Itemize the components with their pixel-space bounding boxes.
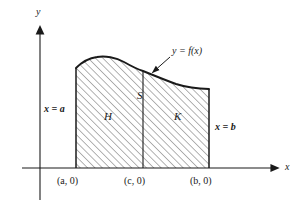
tick-label-c: (c, 0) [124, 176, 145, 186]
region-label-h: H [104, 111, 112, 122]
curve-label-leader-line [153, 57, 171, 73]
y-axis-label: y [36, 7, 40, 17]
curve-equation-label: y = f(x) [172, 46, 202, 56]
figure-container: y x y = f(x) x = a x = b S H K (a, 0) (c… [0, 0, 301, 210]
tick-label-b: (b, 0) [190, 176, 212, 186]
region-label-k: K [174, 111, 181, 122]
left-boundary-label: x = a [44, 104, 65, 114]
tick-label-a: (a, 0) [57, 176, 78, 186]
divider-label-s: S [137, 90, 143, 101]
right-boundary-label: x = b [215, 122, 236, 132]
x-axis-label: x [285, 162, 289, 172]
